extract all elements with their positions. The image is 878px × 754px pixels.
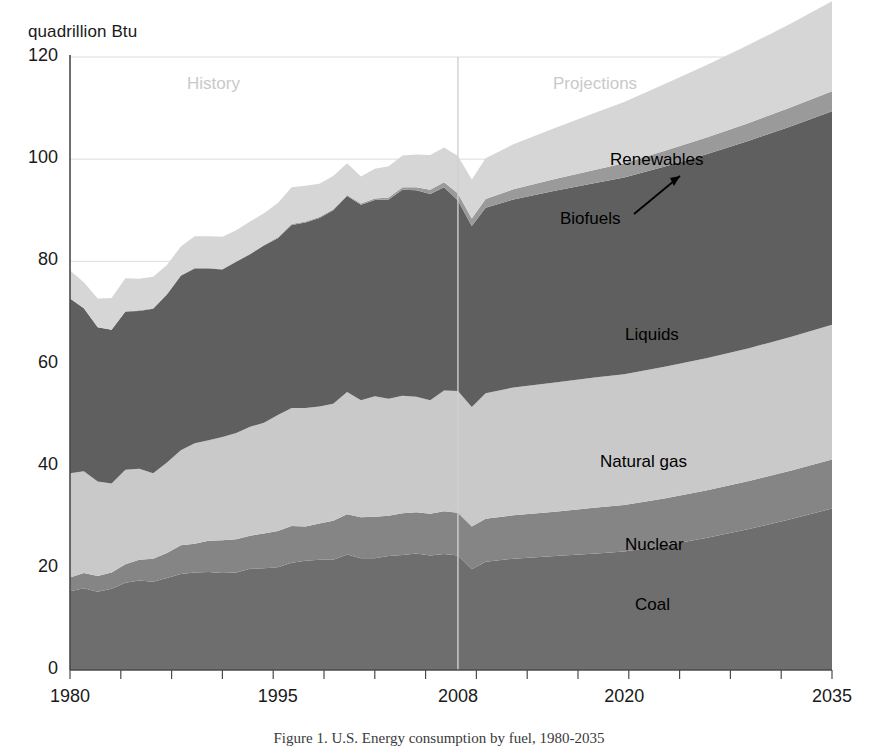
stacked-areas — [70, 1, 832, 670]
y-tick-80: 80 — [4, 249, 58, 270]
x-tick-2035: 2035 — [787, 686, 877, 707]
y-tick-100: 100 — [4, 147, 58, 168]
area-label-liquids: Liquids — [625, 325, 679, 345]
y-axis-unit-label: quadrillion Btu — [28, 22, 137, 42]
stacked-area-chart — [0, 0, 878, 754]
projections-annotation: Projections — [553, 74, 637, 94]
x-axis-ticks — [70, 670, 832, 679]
y-tick-0: 0 — [4, 658, 58, 679]
x-tick-2020: 2020 — [579, 686, 669, 707]
x-tick-1995: 1995 — [233, 686, 323, 707]
y-tick-60: 60 — [4, 352, 58, 373]
area-label-natural-gas: Natural gas — [600, 452, 687, 472]
area-label-biofuels: Biofuels — [560, 209, 620, 229]
y-tick-20: 20 — [4, 556, 58, 577]
x-tick-1980: 1980 — [25, 686, 115, 707]
y-tick-40: 40 — [4, 454, 58, 475]
x-tick-2008: 2008 — [413, 686, 503, 707]
figure-caption: Figure 1. U.S. Energy consumption by fue… — [0, 730, 878, 754]
area-label-nuclear: Nuclear — [625, 535, 684, 555]
y-tick-120: 120 — [4, 45, 58, 66]
history-annotation: History — [187, 74, 240, 94]
area-label-coal: Coal — [635, 595, 670, 615]
area-label-renewables: Renewables — [610, 150, 704, 170]
energy-consumption-figure: quadrillion Btu 020406080100120 19801995… — [0, 0, 878, 754]
